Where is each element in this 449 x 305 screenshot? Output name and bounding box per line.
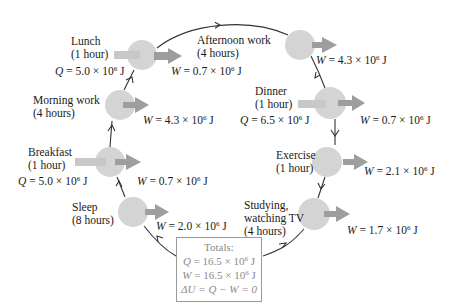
w-value-sleep: W = 2.0 × 106 J (156, 220, 227, 233)
stage-name-line2: watching TV (244, 212, 304, 225)
stage-duration: (1 hour) (28, 159, 72, 172)
stage-name: Exercise (276, 149, 316, 162)
label-afternoon-work: Afternoon work (4 hours) (197, 34, 271, 60)
stage-name: Morning work (33, 94, 100, 107)
q-value-lunch: Q = 5.0 × 106 J (55, 65, 125, 78)
q-arrow-lunch (114, 51, 140, 59)
w-value-afternoon-work: W = 4.3 × 106 J (316, 54, 387, 67)
circle-afternoon-work (285, 30, 315, 60)
stage-duration: (4 hours) (33, 107, 100, 120)
w-value-morning-work: W = 4.3 × 106 J (143, 114, 214, 127)
energy-cycle-diagram: Lunch (1 hour) Q = 5.0 × 106 J W = 0.7 ×… (0, 0, 449, 305)
stage-name: Breakfast (28, 146, 72, 159)
label-breakfast: Breakfast (1 hour) (28, 146, 72, 172)
stage-circles (95, 30, 346, 230)
q-value-breakfast: Q = 5.0 × 106 J (18, 175, 88, 188)
totals-delta-u: ΔU = Q − W = 0 (177, 282, 261, 296)
totals-title: Totals: (177, 240, 261, 254)
w-value-lunch: W = 0.7 × 106 J (171, 65, 242, 78)
w-value-dinner: W = 0.7 × 106 J (360, 114, 431, 127)
label-lunch: Lunch (1 hour) (71, 35, 108, 61)
stage-duration: (8 hours) (72, 214, 114, 227)
w-value-studying: W = 1.7 × 106 J (347, 224, 418, 237)
label-studying: Studying, watching TV (4 hours) (244, 199, 304, 238)
q-arrow-dinner (298, 100, 326, 108)
label-morning-work: Morning work (4 hours) (33, 94, 100, 120)
label-exercise: Exercise (1 hour) (276, 149, 316, 175)
stage-name: Dinner (255, 85, 292, 98)
totals-w: W = 16.5 × 106 J (177, 268, 261, 282)
w-arrow-afternoon (312, 37, 337, 53)
w-value-exercise: W = 2.1 × 106 J (364, 165, 435, 178)
stage-name: Afternoon work (197, 34, 271, 47)
stage-name: Sleep (72, 201, 114, 214)
q-value-dinner: Q = 6.5 × 106 J (240, 114, 310, 127)
stage-duration: (1 hour) (255, 98, 292, 111)
stage-duration: (1 hour) (276, 162, 316, 175)
stage-duration: (4 hours) (197, 47, 271, 60)
w-arrow-sleep (145, 204, 169, 220)
q-arrow-breakfast (75, 158, 106, 166)
label-dinner: Dinner (1 hour) (255, 85, 292, 111)
label-sleep: Sleep (8 hours) (72, 201, 114, 227)
stage-name: Studying, (244, 199, 304, 212)
w-arrow-lunch (154, 48, 182, 64)
totals-box: Totals: Q = 16.5 × 106 J W = 16.5 × 106 … (176, 237, 262, 302)
circle-sleep (118, 197, 148, 227)
w-value-breakfast: W = 0.7 × 106 J (137, 175, 208, 188)
circle-exercise (312, 147, 342, 177)
stage-name: Lunch (71, 35, 108, 48)
stage-duration: (1 hour) (71, 48, 108, 61)
totals-q: Q = 16.5 × 106 J (177, 254, 261, 268)
